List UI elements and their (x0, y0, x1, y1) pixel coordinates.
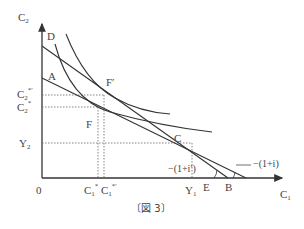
point-b-label: B (225, 181, 232, 193)
point-e-label: E (203, 181, 210, 193)
slope-label-steep: −(1+i′) (168, 163, 196, 175)
point-f-label: F (86, 118, 92, 130)
figure-caption: 〔図 3〕 (131, 203, 171, 214)
angle-arc-e (214, 170, 217, 178)
origin-label: 0 (36, 184, 42, 196)
budget-line-a-b (42, 78, 246, 178)
y-tick-y2: Y2 (19, 137, 31, 151)
x-tick-c1-star: C1* (84, 182, 99, 198)
angle-arc-b (233, 172, 235, 178)
point-c-label: C (174, 132, 181, 144)
point-d-label: D (47, 30, 55, 42)
x-tick-c1-star-prime: C1*′ (101, 182, 117, 198)
indifference-curve-inner (55, 44, 212, 132)
y-axis-label: C2 (18, 11, 29, 25)
point-a-label: A (48, 70, 56, 82)
x-tick-y1: Y1 (185, 184, 197, 198)
slope-label-shallow: −(1+i) (253, 158, 279, 170)
budget-line-d-e (42, 46, 228, 178)
point-f-prime-label: F′ (106, 76, 115, 88)
intertemporal-consumption-diagram: C2 C1 0 C2*′ C2* Y2 C1* C1*′ Y1 D A F′ F… (0, 0, 304, 229)
x-axis-label: C1 (280, 188, 291, 202)
